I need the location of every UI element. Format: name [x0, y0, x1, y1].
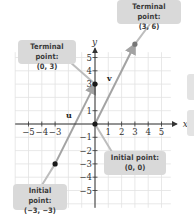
y-tick-label: −2	[79, 146, 92, 156]
callout-coords: (0, 0)	[107, 163, 163, 173]
point-terminal-u	[92, 82, 97, 87]
coordinate-plane: uv xy −5−4−3123455431−1−2−3−4−5	[0, 0, 194, 215]
callout-title: Initial point:	[107, 153, 163, 163]
callout-title: Initial point:	[16, 186, 64, 206]
x-tick-label: −5	[22, 127, 35, 137]
callout-coords: (3, 6)	[120, 22, 178, 32]
callout-terminal-point-v: Terminal point: (3, 6)	[117, 0, 181, 24]
callout-leader-line	[42, 164, 55, 185]
point-initial-u	[53, 161, 58, 166]
y-tick-label: −1	[79, 132, 92, 142]
callout-title: Terminal point:	[21, 42, 73, 62]
offscreen-callout-edge	[187, 110, 194, 136]
x-tick-label: 5	[159, 127, 164, 137]
callout-initial-point-v: Initial point: (0, 0)	[104, 151, 166, 175]
y-tick-label: 3	[87, 79, 92, 89]
vector-label-v: v	[106, 73, 112, 83]
point-terminal-v	[132, 42, 137, 47]
x-tick-label: 1	[106, 127, 111, 137]
callout-coords: (0, 3)	[21, 62, 73, 72]
vector-diagram: uv xy −5−4−3123455431−1−2−3−4−5 Terminal…	[0, 0, 194, 215]
point-initial-v	[92, 121, 97, 126]
y-tick-label: 1	[87, 106, 92, 116]
callout-terminal-point-u: Terminal point: (0, 3)	[18, 40, 76, 64]
callout-coords: (−3, −3)	[16, 206, 64, 215]
y-tick-label: −5	[79, 186, 92, 196]
x-tick-label: −3	[49, 127, 62, 137]
y-tick-label: −3	[79, 159, 92, 169]
offscreen-callout-edge	[187, 74, 194, 100]
x-tick-label: −4	[36, 127, 49, 137]
callout-initial-point-u: Initial point: (−3, −3)	[13, 184, 67, 210]
y-axis-label: y	[91, 37, 98, 47]
x-tick-label: 4	[145, 127, 150, 137]
vector-label-u: u	[66, 110, 72, 120]
callout-title: Terminal point:	[120, 2, 178, 22]
x-tick-label: 2	[119, 127, 124, 137]
y-tick-label: 5	[87, 53, 92, 63]
y-tick-label: 4	[87, 66, 92, 76]
y-tick-label: −4	[79, 172, 92, 182]
x-tick-label: 3	[132, 127, 137, 137]
